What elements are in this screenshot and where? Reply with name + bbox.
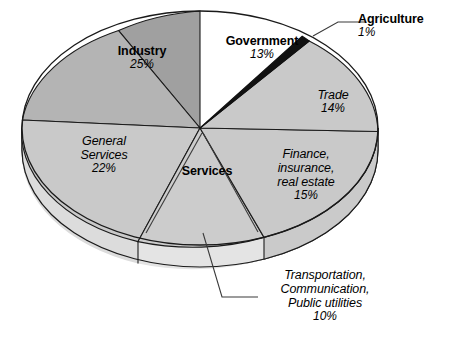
agriculture-name: Agriculture — [358, 12, 424, 26]
pie-slices-top — [21, 11, 378, 247]
slice-label-trade: Trade 14% — [292, 88, 374, 115]
slice-label-industry: Industry 25% — [96, 44, 188, 71]
services-group-name: Services — [166, 164, 248, 178]
agriculture-pct: 1% — [358, 26, 424, 39]
general-services-pct: 22% — [52, 162, 156, 175]
slice-label-government: Government 13% — [206, 34, 318, 61]
trade-pct: 14% — [292, 102, 374, 115]
slice-label-agriculture: Agriculture 1% — [358, 12, 424, 39]
government-name: Government — [206, 34, 318, 48]
transportation-line2: Communication, — [258, 282, 392, 296]
finance-line3: real estate — [248, 175, 364, 189]
finance-pct: 15% — [248, 189, 364, 202]
slice-label-general-services: General Services 22% — [52, 134, 156, 175]
finance-line2: insurance, — [248, 161, 364, 175]
finance-line1: Finance, — [248, 147, 364, 161]
group-label-services: Services — [166, 164, 248, 178]
slice-label-transportation: Transportation, Communication, Public ut… — [258, 268, 392, 323]
general-services-line2: Services — [52, 148, 156, 162]
transportation-pct: 10% — [258, 310, 392, 323]
government-pct: 13% — [206, 48, 318, 61]
trade-name: Trade — [292, 88, 374, 102]
transportation-line1: Transportation, — [258, 268, 392, 282]
industry-pct: 25% — [96, 58, 188, 71]
slice-label-finance: Finance, insurance, real estate 15% — [248, 147, 364, 202]
general-services-line1: General — [52, 134, 156, 148]
pie-chart: Agriculture 1% Government 13% Industry 2… — [0, 0, 456, 348]
transportation-line3: Public utilities — [258, 296, 392, 310]
industry-name: Industry — [96, 44, 188, 58]
